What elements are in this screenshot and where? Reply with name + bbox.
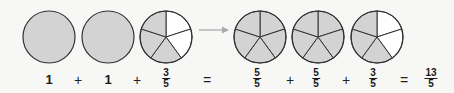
fraction-three-fifths: 3 5: [369, 68, 377, 89]
plus-sign: +: [342, 73, 350, 87]
term-whole-1: 1: [45, 73, 52, 86]
pie-5: [292, 11, 344, 63]
plus-sign: +: [133, 73, 141, 87]
numerator: 5: [312, 68, 320, 78]
denominator: 5: [369, 79, 377, 89]
pie-2: [82, 11, 134, 63]
denominator: 5: [312, 79, 320, 89]
fraction-five-fifths: 5 5: [253, 68, 261, 89]
numerator: 3: [369, 68, 377, 78]
plus-sign: +: [74, 73, 82, 87]
equals-sign: =: [203, 73, 211, 87]
numerator: 13: [424, 68, 437, 78]
term-whole-2: 1: [104, 73, 111, 86]
numerator: 5: [253, 68, 261, 78]
numerator: 3: [162, 68, 170, 78]
pie-1: [23, 11, 75, 63]
plus-sign: +: [286, 73, 294, 87]
fraction-three-fifths: 3 5: [162, 68, 170, 89]
pie-3: [140, 11, 192, 63]
pie-group: [23, 11, 403, 63]
arrow-icon: [199, 27, 229, 34]
pie-4: [234, 11, 286, 63]
denominator: 5: [427, 79, 435, 89]
equals-sign: =: [400, 73, 408, 87]
denominator: 5: [253, 79, 261, 89]
fraction-five-fifths: 5 5: [312, 68, 320, 89]
denominator: 5: [162, 79, 170, 89]
fraction-diagram: [0, 0, 454, 93]
pie-6: [351, 11, 403, 63]
fraction-result: 13 5: [424, 68, 437, 89]
